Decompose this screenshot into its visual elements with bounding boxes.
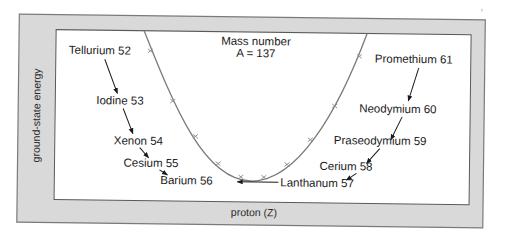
label-lanthanum-57: Lanthanum 57 <box>280 176 354 189</box>
x-axis-label: proton (Z) <box>231 206 277 219</box>
label-promethium-61: Promethium 61 <box>375 53 453 66</box>
label-praseodymium-59: Praseodymium 59 <box>334 134 427 147</box>
label-barium-56: Barium 56 <box>160 174 213 187</box>
label-iodine-53: Iodine 53 <box>96 94 143 107</box>
label-neodymium-60: Neodymium 60 <box>359 102 436 115</box>
mass-number-title: Mass number <box>221 35 291 48</box>
label-xenon-54: Xenon 54 <box>114 134 164 147</box>
mass-number-value: A = 137 <box>236 47 275 59</box>
mass-parabola-figure: r ground-state energy proton (Z) Mass nu… <box>0 0 505 241</box>
label-cerium-58: Cerium 58 <box>319 160 372 173</box>
arrow-la-to-ba <box>237 182 278 183</box>
label-cesium-55: Cesium 55 <box>123 156 178 169</box>
y-axis-label: ground-state energy <box>30 68 43 163</box>
scan-artifact: r <box>481 7 483 13</box>
label-tellurium-52: Tellurium 52 <box>69 44 131 57</box>
